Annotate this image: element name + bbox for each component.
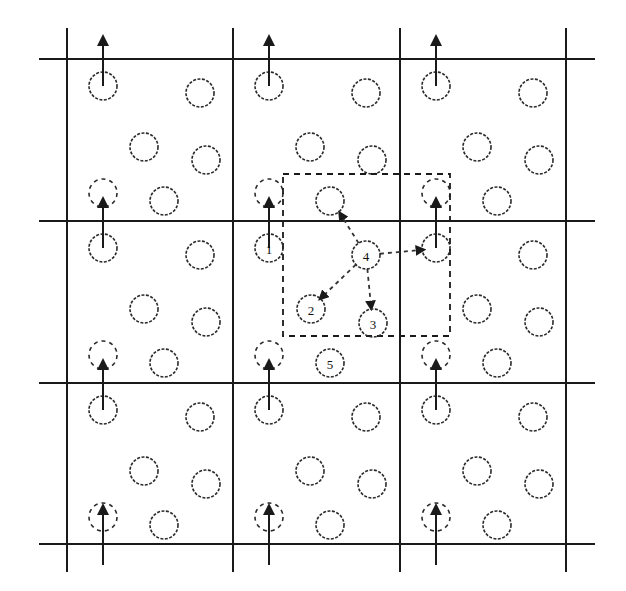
particle-icon [296, 457, 324, 485]
particle-label: 2 [308, 303, 315, 318]
particle-icon [296, 133, 324, 161]
cell-0-1 [255, 40, 386, 215]
pair-arrow-icon-1 [322, 265, 356, 297]
particle-icon [463, 133, 491, 161]
particle-icon [130, 457, 158, 485]
particle-label: 5 [327, 357, 334, 372]
particle-icon [192, 146, 220, 174]
particle-icon [192, 308, 220, 336]
particle-icon [130, 133, 158, 161]
cell-0-2 [422, 40, 553, 215]
cell-2-2 [422, 364, 553, 565]
particle-4: 4 [352, 241, 380, 269]
periodic-cell-diagram: 12345 [0, 0, 626, 591]
particle-icon [463, 295, 491, 323]
periodic-cells [89, 40, 553, 565]
particle-5: 5 [316, 349, 344, 377]
cell-2-0 [89, 364, 220, 565]
pair-interaction-arrows [322, 215, 421, 306]
particle-icon [150, 187, 178, 215]
particle-icon [519, 403, 547, 431]
cell-1-0 [89, 202, 220, 377]
particle-label: 3 [370, 317, 377, 332]
pair-arrow-icon-0 [341, 215, 359, 243]
particle-icon [192, 470, 220, 498]
particle-icon [358, 470, 386, 498]
cell-2-1 [255, 364, 386, 565]
pair-arrow-icon-2 [367, 269, 371, 306]
particle-icon [130, 295, 158, 323]
particle-icon [316, 187, 344, 215]
labeled-particles: 12345 [255, 234, 387, 377]
cell-grid [39, 28, 595, 572]
particle-icon [483, 511, 511, 539]
particle-icon [525, 308, 553, 336]
particle-icon [483, 349, 511, 377]
particle-icon [186, 241, 214, 269]
particle-icon [463, 457, 491, 485]
particle-2: 2 [297, 295, 325, 323]
particle-3: 3 [359, 309, 387, 337]
cell-0-0 [89, 40, 220, 215]
particle-icon [525, 470, 553, 498]
cell-1-1 [255, 202, 283, 369]
particle-icon [483, 187, 511, 215]
particle-icon [150, 349, 178, 377]
particle-icon [519, 79, 547, 107]
particle-icon [316, 511, 344, 539]
particle-icon [519, 241, 547, 269]
particle-icon [525, 146, 553, 174]
particle-icon [352, 79, 380, 107]
particle-icon [352, 403, 380, 431]
particle-icon [150, 511, 178, 539]
particle-icon [186, 403, 214, 431]
particle-label: 4 [363, 249, 370, 264]
particle-icon [186, 79, 214, 107]
cell-1-2 [422, 202, 553, 377]
particle-label: 1 [266, 242, 273, 257]
particle-icon [358, 146, 386, 174]
